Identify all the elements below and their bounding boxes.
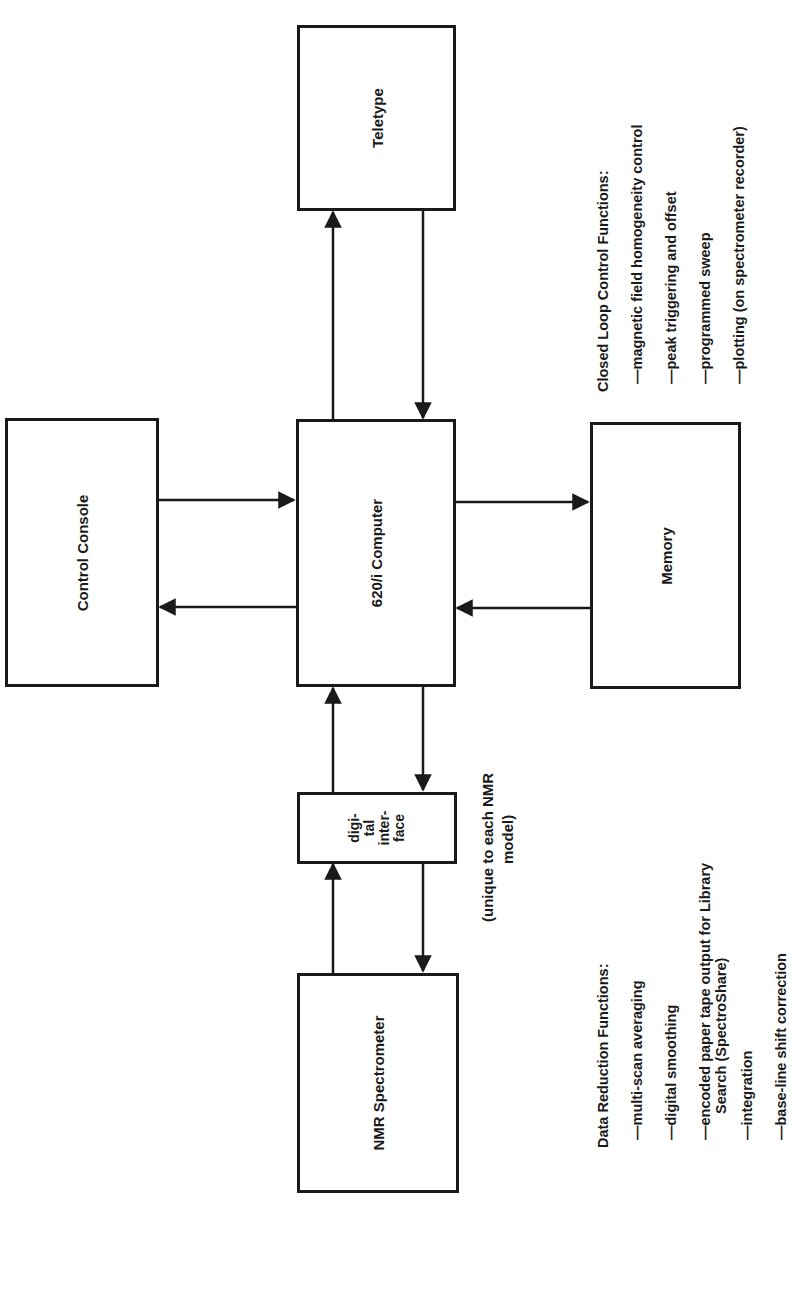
closed-loop-item: —plotting (on spectrometer recorder) [722,125,756,392]
memory-label: Memory [657,527,674,585]
interface-note: (unique to each NMR model) [478,773,518,922]
computer-block: 620/i Computer [296,419,456,687]
data-reduction-title: Data Reduction Functions: [586,863,620,1148]
data-reduction-item: —multi-scan averaging [620,863,654,1148]
data-reduction-item: —base-line shift correction [764,863,798,1148]
memory-block: Memory [590,422,741,689]
closed-loop-title: Closed Loop Control Functions: [586,125,620,392]
digital-interface-label: digi- tal inter- face [347,811,407,846]
teletype-label: Teletype [368,88,385,148]
data-reduction-functions: Data Reduction Functions: —multi-scan av… [586,863,798,1148]
control-console-label: Control Console [74,494,91,611]
nmr-spectrometer-label: NMR Spectrometer [370,1015,387,1150]
digital-interface-block: digi- tal inter- face [297,792,457,864]
computer-label: 620/i Computer [368,499,385,607]
data-reduction-item: —integration [730,863,764,1148]
closed-loop-item: —peak triggering and offset [654,125,688,392]
nmr-spectrometer-block: NMR Spectrometer [297,973,459,1193]
data-reduction-item: —digital smoothing [654,863,688,1148]
control-console-block: Control Console [5,418,159,687]
closed-loop-item: —magnetic field homogeneity control [620,125,654,392]
teletype-block: Teletype [297,25,456,211]
closed-loop-functions: Closed Loop Control Functions: —magnetic… [586,125,756,392]
closed-loop-item: —programmed sweep [688,125,722,392]
